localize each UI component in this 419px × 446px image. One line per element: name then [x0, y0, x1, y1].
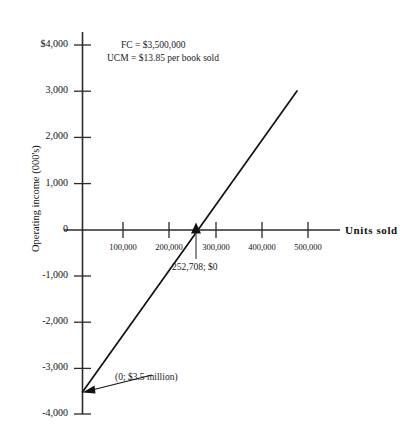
y-tick-label-1000: 1,000: [8, 178, 68, 188]
y-axis-title: Operating income (000's): [30, 145, 41, 252]
fixed-cost-text: FC = $3,500,000: [107, 39, 219, 52]
cvp-chart: Operating income (000's) Units sold $4,0…: [0, 0, 419, 446]
y-tick-label-minus-2000: -2,000: [8, 316, 68, 326]
y-tick-label-minus-4000: -4,000: [8, 408, 68, 418]
intercept-label: (0; $3.5 million): [115, 372, 178, 382]
y-tick-label-4000: $4,000: [8, 39, 68, 49]
y-tick-label-2000: 2,000: [8, 131, 68, 141]
y-tick-label-minus-1000: -1,000: [8, 270, 68, 280]
assumptions-annotation: FC = $3,500,000 UCM = $13.85 per book so…: [107, 39, 219, 64]
breakeven-label: 252,708; $0: [172, 262, 217, 272]
ucm-text: UCM = $13.85 per book sold: [107, 52, 219, 65]
x-axis-title: Units sold: [345, 224, 398, 236]
y-tick-label-0: 0: [8, 224, 68, 234]
y-tick-label-minus-3000: -3,000: [8, 362, 68, 372]
x-tick-label-500000: 500,000: [280, 243, 336, 252]
y-tick-label-3000: 3,000: [8, 85, 68, 95]
